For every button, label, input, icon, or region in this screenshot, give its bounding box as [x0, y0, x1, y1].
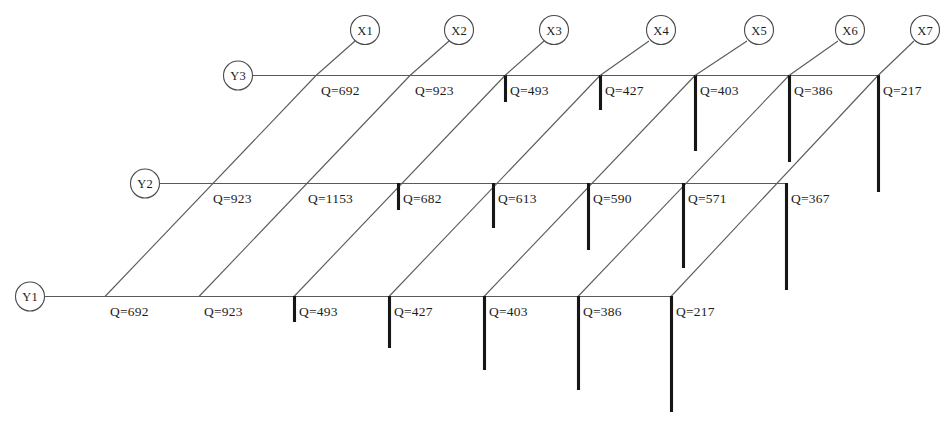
q-label-y1-x1: Q=692 [110, 304, 149, 319]
leader-line-x6 [789, 41, 838, 76]
leader-line-x4 [600, 41, 649, 76]
q-label-y3-x1: Q=692 [321, 83, 360, 98]
q-label-y3-x7: Q=217 [883, 83, 922, 98]
q-label-y2-x2: Q=1153 [308, 191, 353, 206]
axis-bubble-label-y2: Y2 [137, 177, 152, 191]
leader-line-x3 [505, 41, 544, 76]
leader-line-x7 [878, 41, 914, 76]
q-label-y1-x3: Q=493 [299, 304, 338, 319]
diagonal-line-x2 [199, 76, 410, 297]
grid-load-diagram: X1 X2 X3 X4 X5 X6 X7 Y3 Y2 Y1 Q=692 Q=92… [0, 0, 942, 422]
axis-bubble-label-x6: X6 [842, 24, 857, 38]
axis-bubble-label-y3: Y3 [230, 69, 245, 83]
axis-bubble-label-x7: X7 [917, 24, 932, 38]
q-label-y1-x4: Q=427 [394, 304, 433, 319]
leader-line-x1 [316, 41, 355, 76]
axis-bubble-label-x3: X3 [546, 24, 561, 38]
q-label-y2-x7: Q=367 [791, 191, 830, 206]
leader-line-x5 [695, 41, 747, 76]
q-label-y1-x7: Q=217 [676, 304, 715, 319]
leader-line-x2 [410, 41, 449, 76]
diagonal-line-x7 [671, 76, 878, 297]
axis-bubble-label-x1: X1 [357, 24, 372, 38]
axis-bubble-label-x4: X4 [653, 24, 669, 38]
frame-drawing: X1 X2 X3 X4 X5 X6 X7 Y3 Y2 Y1 Q=692 Q=92… [0, 0, 942, 422]
q-label-y3-x6: Q=386 [794, 83, 833, 98]
q-label-y2-x6: Q=571 [688, 191, 727, 206]
axis-bubble-label-x5: X5 [751, 24, 766, 38]
axis-bubble-label-x2: X2 [451, 24, 466, 38]
q-label-y3-x2: Q=923 [415, 83, 454, 98]
q-label-y2-x1: Q=923 [213, 191, 252, 206]
q-label-y1-x5: Q=403 [489, 304, 528, 319]
q-label-y2-x5: Q=590 [593, 191, 632, 206]
q-label-y3-x3: Q=493 [510, 83, 549, 98]
q-label-y2-x3: Q=682 [403, 191, 442, 206]
q-label-y1-x6: Q=386 [583, 304, 622, 319]
axis-bubble-label-y1: Y1 [22, 290, 37, 304]
q-label-y2-x4: Q=613 [498, 191, 537, 206]
q-label-y1-x2: Q=923 [204, 304, 243, 319]
q-label-y3-x4: Q=427 [605, 83, 644, 98]
q-label-y3-x5: Q=403 [700, 83, 739, 98]
